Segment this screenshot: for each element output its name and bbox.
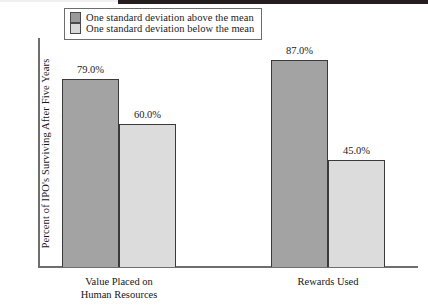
bar-label-rewards-used-above: 87.0%	[271, 45, 328, 56]
bar-rewards-used-below	[328, 160, 385, 267]
category-label-rewards-used: Rewards Used	[248, 275, 408, 288]
bar-label-value-placed-below: 60.0%	[119, 109, 176, 120]
bar-label-rewards-used-below: 45.0%	[328, 145, 385, 156]
plot-area: 79.0% 60.0% 87.0% 45.0%	[0, 0, 428, 307]
bar-value-placed-below	[119, 124, 176, 267]
bar-chart-figure: One standard deviation above the mean On…	[0, 0, 428, 307]
category-label-value-placed: Value Placed on Human Resources	[39, 275, 199, 301]
bar-rewards-used-above	[271, 60, 328, 267]
category-label-line2: Human Resources	[39, 288, 199, 301]
category-label-line1: Value Placed on	[39, 275, 199, 288]
bar-label-value-placed-above: 79.0%	[62, 64, 119, 75]
bar-value-placed-above	[62, 79, 119, 267]
category-label-line1: Rewards Used	[248, 275, 408, 288]
